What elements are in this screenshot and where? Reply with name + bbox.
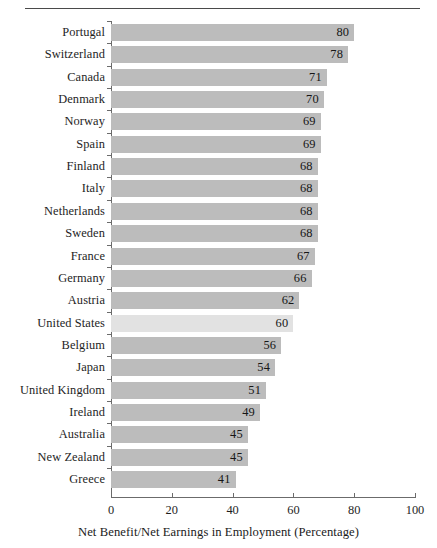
y-axis-tick — [107, 401, 112, 402]
x-axis-tick-label: 60 — [263, 503, 323, 518]
bar-category-label: Denmark — [4, 91, 105, 108]
y-axis-tick — [107, 66, 112, 67]
bar-category-label: Spain — [4, 136, 105, 153]
bar: 66 — [111, 270, 312, 287]
bar-value-label: 45 — [230, 449, 243, 466]
bar: 78 — [111, 46, 348, 63]
bar: 51 — [111, 382, 266, 399]
bar-row-label-wrap: Germany — [0, 270, 105, 287]
y-axis-tick — [107, 110, 112, 111]
bar-row: Netherlands68 — [0, 203, 437, 220]
x-axis-tick — [111, 493, 112, 498]
bar-row-label-wrap: France — [0, 248, 105, 265]
bar-row-label-wrap: Austria — [0, 292, 105, 309]
bar-row-label-wrap: Canada — [0, 69, 105, 86]
bar-value-label: 80 — [336, 24, 349, 41]
bar: 68 — [111, 203, 318, 220]
x-axis-tick-label: 0 — [81, 503, 141, 518]
bar-row-label-wrap: United Kingdom — [0, 382, 105, 399]
bar-value-label: 68 — [300, 158, 313, 175]
bar-row-label-wrap: Australia — [0, 426, 105, 443]
bar-row: Finland68 — [0, 158, 437, 175]
bar-category-label: Canada — [4, 69, 105, 86]
x-axis-caption: Net Benefit/Net Earnings in Employment (… — [0, 525, 437, 540]
bar-value-label: 56 — [263, 337, 276, 354]
bar-row: Canada71 — [0, 69, 437, 86]
y-axis-tick — [107, 177, 112, 178]
x-axis-tick — [354, 493, 355, 498]
bar: 49 — [111, 404, 260, 421]
y-axis-tick — [107, 289, 112, 290]
bar-value-label: 78 — [330, 46, 343, 63]
bar-value-label: 70 — [306, 91, 319, 108]
bar: 67 — [111, 248, 315, 265]
x-axis-tick — [293, 493, 294, 498]
bar: 68 — [111, 180, 318, 197]
bar-value-label: 69 — [303, 113, 316, 130]
bar-category-label: Australia — [4, 426, 105, 443]
bar: 68 — [111, 225, 318, 242]
bar-chart: Portugal80Switzerland78Canada71Denmark70… — [0, 0, 437, 548]
bar-row: Spain69 — [0, 136, 437, 153]
bar-category-label: Italy — [4, 180, 105, 197]
bar-row-label-wrap: Norway — [0, 113, 105, 130]
bar-row-label-wrap: Belgium — [0, 337, 105, 354]
y-axis-tick — [107, 468, 112, 469]
bar-category-label: France — [4, 248, 105, 265]
bar: 54 — [111, 359, 275, 376]
bar: 80 — [111, 24, 354, 41]
bar-value-label: 71 — [309, 69, 322, 86]
bar-value-label: 41 — [218, 471, 231, 488]
bar-row-label-wrap: Greece — [0, 471, 105, 488]
bar: 41 — [111, 471, 236, 488]
y-axis-tick — [107, 267, 112, 268]
x-axis-tick-label: 40 — [203, 503, 263, 518]
bar-row: Denmark70 — [0, 91, 437, 108]
bar-row: Portugal80 — [0, 24, 437, 41]
y-axis-tick — [107, 334, 112, 335]
x-axis-tick — [172, 493, 173, 498]
bar-row-label-wrap: Finland — [0, 158, 105, 175]
bar-row: Italy68 — [0, 180, 437, 197]
bar-row: Germany66 — [0, 270, 437, 287]
bar-row: Japan54 — [0, 359, 437, 376]
bar-category-label: United Kingdom — [4, 382, 105, 399]
bar-value-label: 60 — [276, 315, 289, 332]
bar-row: Switzerland78 — [0, 46, 437, 63]
bar-row: Norway69 — [0, 113, 437, 130]
bar-value-label: 49 — [242, 404, 255, 421]
bar: 68 — [111, 158, 318, 175]
bar-row-label-wrap: Denmark — [0, 91, 105, 108]
bar-value-label: 68 — [300, 180, 313, 197]
bar-row-label-wrap: Spain — [0, 136, 105, 153]
y-axis-tick — [107, 155, 112, 156]
bar: 56 — [111, 337, 281, 354]
bar-category-label: Sweden — [4, 225, 105, 242]
x-axis-line — [111, 497, 416, 498]
bar-row-label-wrap: United States — [0, 315, 105, 332]
y-axis-tick — [107, 379, 112, 380]
bar-value-label: 45 — [230, 426, 243, 443]
bar-category-label: Belgium — [4, 337, 105, 354]
bar: 69 — [111, 136, 321, 153]
bar-row: Austria62 — [0, 292, 437, 309]
bar-row: United States60 — [0, 315, 437, 332]
y-axis-tick — [107, 423, 112, 424]
bar-category-label: United States — [4, 315, 105, 332]
bar-row-label-wrap: Ireland — [0, 404, 105, 421]
bar-category-label: Portugal — [4, 24, 105, 41]
bar-category-label: Germany — [4, 270, 105, 287]
bar: 45 — [111, 426, 248, 443]
bar-row-label-wrap: Netherlands — [0, 203, 105, 220]
bar-value-label: 69 — [303, 136, 316, 153]
y-axis-tick — [107, 356, 112, 357]
bar-value-label: 67 — [297, 248, 310, 265]
bar-category-label: Ireland — [4, 404, 105, 421]
bar: 62 — [111, 292, 299, 309]
bar-category-label: Greece — [4, 471, 105, 488]
bar-category-label: Finland — [4, 158, 105, 175]
bar-row: Australia45 — [0, 426, 437, 443]
x-axis-tick-label: 100 — [385, 503, 437, 518]
y-axis-tick — [107, 43, 112, 44]
bar-row-label-wrap: Japan — [0, 359, 105, 376]
